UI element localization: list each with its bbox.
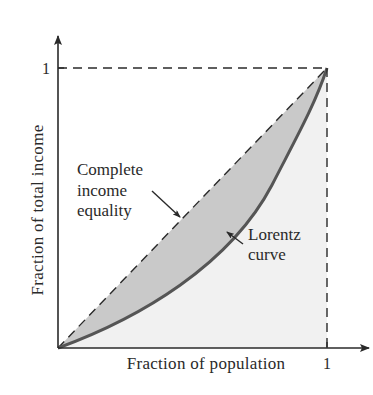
lorentz-chart: 1 1 Fraction of population Fraction of t… xyxy=(0,0,373,395)
y-tick-label-1: 1 xyxy=(42,60,50,77)
y-axis-label: Fraction of total income xyxy=(28,124,47,295)
x-axis-label: Fraction of population xyxy=(127,354,286,373)
x-tick-label-1: 1 xyxy=(323,355,331,372)
equality-pointer-arrow xyxy=(152,191,180,217)
equality-annotation: Complete income equality xyxy=(77,160,147,220)
